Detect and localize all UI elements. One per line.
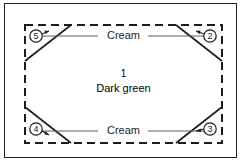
center-region-number: 1 [0,68,247,79]
center-region-fabric: Dark green [0,82,247,94]
figure-canvas: Cream Cream 1 Dark green 5 2 4 3 [0,0,247,165]
callout-label-3: 3 [203,122,217,136]
callout-label-4: 4 [29,122,43,136]
callout-label-5: 5 [29,29,43,43]
callout-label-2: 2 [203,29,217,43]
center-region-label-group: 1 Dark green [0,68,247,94]
